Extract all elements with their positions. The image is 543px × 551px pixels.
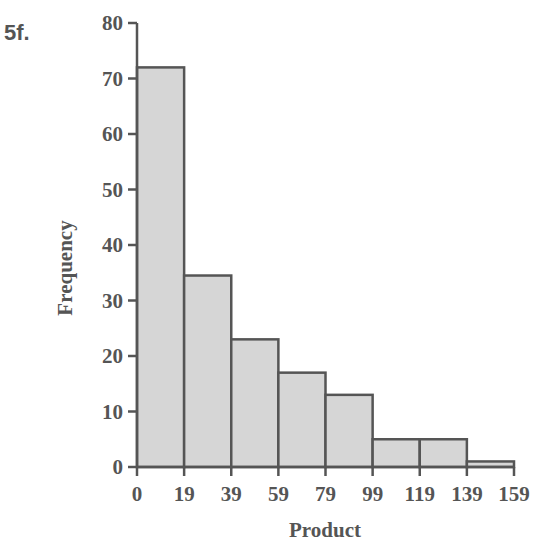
histogram-bar: [137, 67, 184, 467]
x-tick-label: 0: [132, 482, 143, 506]
x-axis-title: Product: [289, 518, 361, 542]
y-tick-label: 40: [102, 233, 123, 257]
y-tick-label: 30: [102, 289, 123, 313]
y-tick-label: 20: [102, 344, 123, 368]
histogram-bar: [326, 395, 373, 467]
histogram-bar: [278, 373, 325, 467]
x-tick-label: 19: [174, 482, 195, 506]
y-tick-label: 0: [113, 455, 124, 479]
y-tick-label: 60: [102, 122, 123, 146]
x-tick-label: 79: [315, 482, 336, 506]
y-tick-label: 10: [102, 400, 123, 424]
y-axis-title: Frequency: [53, 220, 77, 316]
x-tick-label: 59: [268, 482, 289, 506]
x-tick-label: 99: [362, 482, 383, 506]
y-tick-label: 70: [102, 67, 123, 91]
histogram-chart: 01020304050607080 01939597999119139159 F…: [0, 0, 543, 551]
histogram-bar: [184, 276, 231, 467]
x-axis: 01939597999119139159: [132, 467, 530, 506]
x-tick-label: 139: [451, 482, 483, 506]
histogram-bar: [231, 339, 278, 467]
histogram-bar: [420, 439, 467, 467]
bars-group: [137, 67, 514, 467]
y-tick-label: 50: [102, 178, 123, 202]
histogram-bar: [373, 439, 420, 467]
y-tick-label: 80: [102, 11, 123, 35]
x-tick-label: 39: [221, 482, 242, 506]
x-tick-label: 159: [498, 482, 530, 506]
x-tick-label: 119: [405, 482, 435, 506]
y-axis: 01020304050607080: [102, 11, 137, 479]
